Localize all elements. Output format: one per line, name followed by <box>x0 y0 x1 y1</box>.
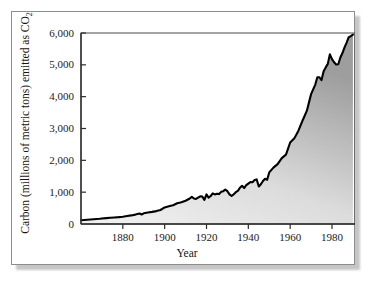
x-tick-label: 1940 <box>237 231 260 243</box>
y-tick-label: 1,000 <box>49 186 74 198</box>
y-tick-label: 0 <box>69 218 75 230</box>
y-tick-label: 5,000 <box>49 58 74 70</box>
y-tick-label: 6,000 <box>49 27 74 39</box>
y-axis-title: Carbon (millions of metric tons) emitted… <box>19 12 34 234</box>
y-tick-label: 3,000 <box>49 122 74 134</box>
x-tick-label: 1920 <box>195 231 218 243</box>
x-tick-label: 1900 <box>154 231 177 243</box>
carbon-emissions-chart: 01,0002,0003,0004,0005,0006,000 18801900… <box>11 11 355 265</box>
figure-root: 01,0002,0003,0004,0005,0006,000 18801900… <box>0 0 391 290</box>
x-axis-title: Year <box>176 247 197 259</box>
plot-area <box>81 35 353 224</box>
x-tick-label: 1880 <box>112 231 135 243</box>
x-tick-label: 1980 <box>321 231 344 243</box>
x-axis-ticks: 188019001920194019601980 <box>112 224 344 243</box>
x-tick-label: 1960 <box>279 231 302 243</box>
y-tick-label: 2,000 <box>49 154 74 166</box>
y-tick-label: 4,000 <box>49 90 74 102</box>
y-axis-title-group: Carbon (millions of metric tons) emitted… <box>19 12 34 234</box>
area-fill <box>81 35 353 224</box>
